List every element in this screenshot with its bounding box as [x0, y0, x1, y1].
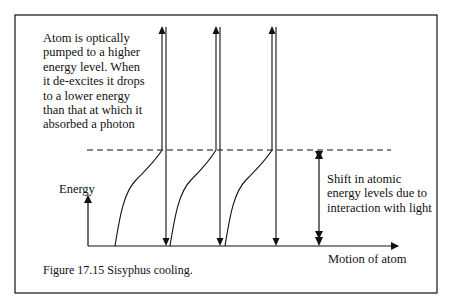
cycle-3 [225, 26, 280, 246]
decay-arrowhead [163, 238, 170, 246]
cycle-2 [170, 26, 224, 246]
pump-arrowhead [159, 26, 166, 34]
energy-curve [225, 33, 272, 246]
decay-arrowhead [273, 238, 280, 246]
pumping-description: Atom is optically pumped to a higher ene… [43, 31, 158, 132]
decay-arrowhead [217, 238, 224, 246]
figure-caption: Figure 17.15 Sisyphus cooling. [43, 263, 193, 277]
shift-label: Shift in atomic energy levels due to int… [327, 172, 432, 215]
energy-curve [170, 33, 216, 246]
energy-axis-label: Energy [59, 182, 95, 196]
motion-axis-label: Motion of atom [328, 252, 406, 266]
pump-arrowhead [213, 26, 220, 34]
pump-arrowhead [269, 26, 276, 34]
